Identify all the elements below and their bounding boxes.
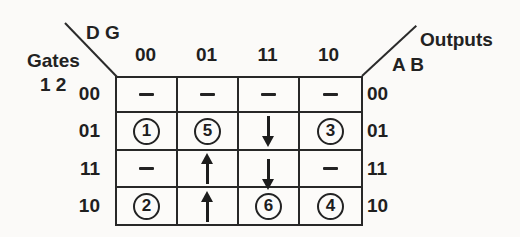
column-axis-label: D G bbox=[86, 23, 120, 43]
right-axis-title: Outputs bbox=[420, 30, 493, 50]
right-axis-sub: A B bbox=[392, 55, 424, 75]
column-header-10: 10 bbox=[298, 44, 359, 66]
arrow-up-icon bbox=[201, 153, 215, 184]
kmap-cell-r3c3: 4 bbox=[300, 188, 361, 224]
row-label-left-00: 00 bbox=[79, 76, 100, 112]
circled-number-4: 4 bbox=[317, 193, 344, 220]
arrow-down-icon bbox=[262, 116, 276, 147]
column-header-11: 11 bbox=[237, 44, 298, 66]
column-header-00: 00 bbox=[115, 44, 176, 66]
kmap-cell-r1c2 bbox=[239, 113, 300, 151]
circled-number-2: 2 bbox=[133, 193, 160, 220]
left-axis-title: Gates bbox=[27, 51, 80, 71]
circled-number-1: 1 bbox=[133, 118, 160, 145]
circled-number-5: 5 bbox=[194, 118, 221, 145]
dash-mark bbox=[139, 93, 154, 96]
kmap-cell-r0c2 bbox=[239, 78, 300, 113]
kmap-cell-r1c0: 1 bbox=[117, 113, 178, 151]
kmap-cell-r2c3 bbox=[300, 151, 361, 188]
kmap-cell-r0c0 bbox=[117, 78, 178, 113]
dash-mark bbox=[323, 167, 338, 170]
arrow-down-icon bbox=[262, 159, 276, 190]
kmap-cell-r3c0: 2 bbox=[117, 188, 178, 224]
kmap-cell-r2c1 bbox=[178, 151, 239, 188]
row-label-left-10: 10 bbox=[79, 187, 100, 224]
kmap-cell-r3c1 bbox=[178, 188, 239, 224]
circled-number-6: 6 bbox=[255, 193, 282, 220]
circled-number-3: 3 bbox=[317, 118, 344, 145]
dash-mark bbox=[139, 167, 154, 170]
kmap-cell-r0c3 bbox=[300, 78, 361, 113]
column-headers: 00 01 11 10 bbox=[115, 44, 363, 66]
arrow-up-icon bbox=[201, 191, 215, 222]
row-labels-left: 00 01 11 10 bbox=[56, 76, 100, 224]
kmap-cell-r0c1 bbox=[178, 78, 239, 113]
kmap-cell-r2c2 bbox=[239, 151, 300, 188]
dash-mark bbox=[200, 93, 215, 96]
kmap-cell-r1c1: 5 bbox=[178, 113, 239, 151]
column-header-01: 01 bbox=[176, 44, 237, 66]
kmap-cell-r3c2: 6 bbox=[239, 188, 300, 224]
kmap-cell-r2c0 bbox=[117, 151, 178, 188]
row-label-right-10: 10 bbox=[367, 187, 411, 224]
dash-mark bbox=[323, 93, 338, 96]
row-label-right-11: 11 bbox=[367, 150, 411, 187]
kmap-grid: 153264 bbox=[115, 76, 363, 226]
row-label-left-11: 11 bbox=[80, 150, 100, 187]
dash-mark bbox=[261, 93, 276, 96]
kmap-cell-r1c3: 3 bbox=[300, 113, 361, 151]
row-label-right-01: 01 bbox=[367, 112, 411, 150]
row-labels-right: 00 01 11 10 bbox=[367, 76, 411, 224]
row-label-left-01: 01 bbox=[79, 112, 100, 150]
kmap-figure: D G Gates 1 2 Outputs A B 00 01 11 10 00… bbox=[0, 0, 520, 237]
row-label-right-00: 00 bbox=[367, 76, 411, 112]
